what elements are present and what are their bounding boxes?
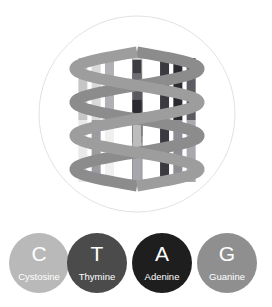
legend-letter: C [31, 242, 46, 265]
legend-label: Thymine [79, 271, 115, 282]
legend-illustration: CCystosineTThymineAAdenineGGuanine [0, 224, 272, 307]
legend-label: Cystosine [18, 271, 60, 282]
legend-letter: G [219, 242, 235, 265]
legend-item-c[interactable]: CCystosine [9, 233, 69, 293]
legend-label: Adenine [145, 271, 180, 282]
helix-group [75, 52, 199, 186]
dna-infographic: CCystosineTThymineAAdenineGGuanine [0, 0, 272, 307]
helix-illustration [0, 0, 272, 224]
legend-item-g[interactable]: GGuanine [197, 233, 257, 293]
legend-letter: A [155, 242, 169, 265]
legend-panel: CCystosineTThymineAAdenineGGuanine [0, 224, 272, 307]
legend-item-a[interactable]: AAdenine [132, 233, 192, 293]
helix-panel [0, 0, 272, 224]
legend-letter: T [91, 242, 104, 265]
legend-label: Guanine [209, 271, 245, 282]
legend-item-t[interactable]: TThymine [67, 233, 127, 293]
